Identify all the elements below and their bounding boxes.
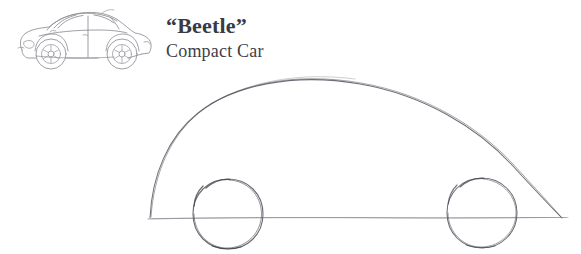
page-subtitle: Compact Car [166,42,336,60]
sketch-page: “Beetle” Compact Car [0,0,581,254]
rear-wheel-circle [447,178,517,248]
ground-line [148,217,568,219]
front-wheel-circle [193,179,263,249]
beetle-side-view-icon [14,6,156,72]
reference-car-illustration [14,6,156,72]
body-dome-arch [150,77,562,218]
page-title: “Beetle” [166,15,336,37]
caption-block: “Beetle” Compact Car [166,15,336,60]
